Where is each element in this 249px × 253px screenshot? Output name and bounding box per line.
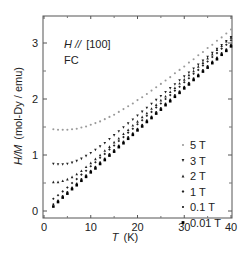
- legend-label: 2 T: [190, 170, 206, 182]
- legend: 5 T3 T2 T1 T0.1 T0.01 T: [182, 139, 222, 229]
- series-0-01-t: [52, 45, 232, 208]
- y-tick-label: 2: [32, 93, 38, 105]
- chart: 0102030400123 H //[100] FC T(K) H/M(mol-…: [0, 0, 249, 253]
- legend-label: 0.1 T: [190, 201, 215, 213]
- y-tick-label: 1: [32, 149, 38, 161]
- x-tick-label: 10: [85, 221, 97, 233]
- legend-item: 3 T: [182, 155, 206, 167]
- legend-item: 5 T: [182, 139, 206, 151]
- y-axis-label: H/M(mol-Dy / emu): [12, 67, 24, 165]
- legend-label: 3 T: [190, 155, 206, 167]
- fc-annotation: FC: [64, 54, 79, 66]
- legend-label: 0.01 T: [190, 217, 221, 229]
- y-tick-label: 3: [32, 37, 38, 49]
- x-axis-label: T(K): [112, 231, 138, 243]
- field-direction-annotation: H //[100]: [64, 38, 111, 50]
- legend-item: 0.1 T: [182, 201, 215, 213]
- x-tick-label: 40: [225, 221, 237, 233]
- legend-item: 1 T: [182, 186, 206, 198]
- legend-label: 5 T: [190, 139, 206, 151]
- y-tick-label: 0: [32, 205, 38, 217]
- x-tick-label: 0: [41, 221, 47, 233]
- legend-item: 2 T: [182, 170, 206, 182]
- legend-label: 1 T: [190, 186, 206, 198]
